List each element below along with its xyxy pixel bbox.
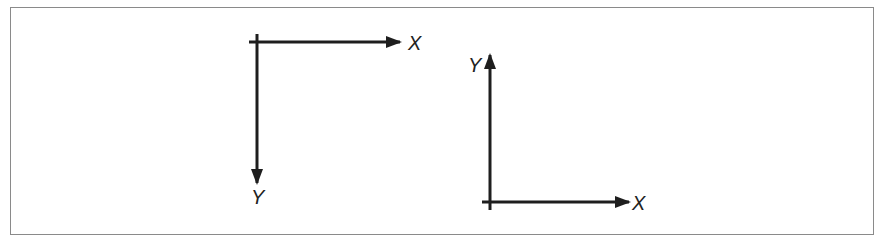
left-coordinate-system: X Y	[249, 32, 422, 208]
left-y-axis-label: Y	[251, 186, 266, 208]
right-y-axis-label: Y	[468, 54, 483, 76]
left-x-axis-label: X	[407, 32, 422, 54]
right-x-axis-label: X	[631, 192, 646, 214]
right-coordinate-system: X Y	[468, 54, 646, 214]
coordinate-systems-diagram: X Y X Y	[0, 0, 881, 243]
